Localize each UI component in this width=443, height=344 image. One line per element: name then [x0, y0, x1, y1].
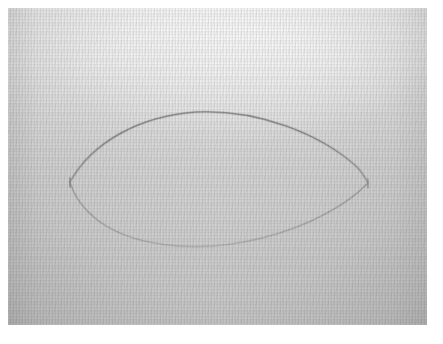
- scan-viewport: Hand-drawn lens shape formed by two oppo…: [0, 0, 443, 344]
- textured-paper-sheet: [8, 8, 427, 325]
- paper-vignette: [8, 8, 427, 325]
- image-caption: Hand-drawn lens shape formed by two oppo…: [0, 0, 1, 1]
